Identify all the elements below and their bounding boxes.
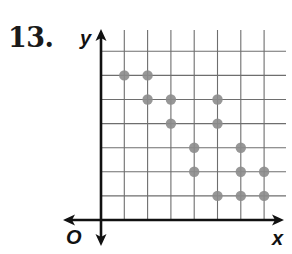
data-point xyxy=(236,143,246,153)
data-point xyxy=(212,191,222,201)
data-point xyxy=(142,94,152,104)
data-point xyxy=(212,94,222,104)
data-point xyxy=(259,167,269,177)
data-point xyxy=(236,167,246,177)
data-point xyxy=(259,191,269,201)
data-point xyxy=(119,70,129,80)
scatter-plot: y O x xyxy=(0,0,292,254)
origin-label: O xyxy=(66,226,82,248)
data-point xyxy=(189,167,199,177)
y-axis-label: y xyxy=(79,27,92,49)
grid-lines xyxy=(101,30,286,220)
data-point xyxy=(212,118,222,128)
data-point xyxy=(166,118,176,128)
data-point xyxy=(166,94,176,104)
data-point xyxy=(189,143,199,153)
data-point xyxy=(142,70,152,80)
x-axis-label: x xyxy=(271,227,284,249)
data-point xyxy=(236,191,246,201)
axes xyxy=(63,29,284,246)
